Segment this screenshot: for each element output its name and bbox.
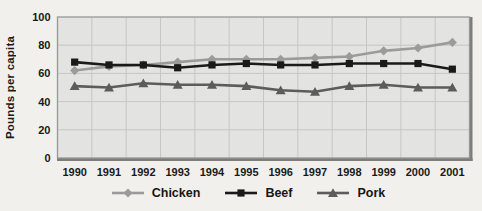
x-tick-label: 1992 bbox=[131, 166, 155, 178]
x-tick-label: 2000 bbox=[406, 166, 430, 178]
legend-label-pork: Pork bbox=[357, 186, 385, 200]
x-tick-label: 1994 bbox=[200, 166, 225, 178]
pork-triangle-marker-icon bbox=[316, 187, 350, 199]
x-tick-label: 1996 bbox=[268, 166, 292, 178]
chicken-legend-swatch bbox=[111, 187, 145, 199]
chicken-diamond-marker-icon bbox=[111, 187, 145, 199]
beef-marker-1992 bbox=[140, 61, 147, 68]
beef-marker-1991 bbox=[105, 61, 112, 68]
y-axis-title: Pounds per capita bbox=[1, 17, 18, 158]
beef-marker-1990 bbox=[71, 59, 78, 66]
beef-marker-1995 bbox=[243, 60, 250, 67]
beef-marker-2001 bbox=[449, 66, 456, 73]
legend-item-chicken: Chicken bbox=[111, 186, 201, 200]
beef-marker-1994 bbox=[208, 61, 215, 68]
plot-area: 0204060801001990199119921993199419951996… bbox=[0, 0, 482, 211]
beef-marker-1998 bbox=[346, 60, 353, 67]
x-tick-label: 1995 bbox=[234, 166, 258, 178]
legend-item-pork: Pork bbox=[316, 186, 385, 200]
beef-legend-swatch bbox=[224, 187, 258, 199]
x-tick-label: 2001 bbox=[440, 166, 464, 178]
chicken-legend-marker bbox=[123, 188, 132, 197]
y-tick-label: 0 bbox=[44, 152, 50, 164]
x-tick-label: 1999 bbox=[371, 166, 395, 178]
x-tick-label: 1998 bbox=[337, 166, 361, 178]
beef-marker-1997 bbox=[311, 61, 318, 68]
x-tick-label: 1997 bbox=[303, 166, 327, 178]
beef-marker-1999 bbox=[380, 60, 387, 67]
beef-legend-marker bbox=[238, 189, 245, 196]
beef-marker-2000 bbox=[414, 60, 421, 67]
meat-consumption-line-chart: 0204060801001990199119921993199419951996… bbox=[0, 0, 482, 211]
legend-label-chicken: Chicken bbox=[152, 186, 201, 200]
y-tick-label: 80 bbox=[38, 39, 50, 51]
beef-marker-1996 bbox=[277, 61, 284, 68]
y-tick-label: 40 bbox=[38, 96, 50, 108]
beef-square-marker-icon bbox=[224, 187, 258, 199]
x-tick-label: 1993 bbox=[165, 166, 189, 178]
y-tick-label: 20 bbox=[38, 124, 50, 136]
legend: Chicken Beef Pork bbox=[0, 183, 482, 203]
pork-legend-swatch bbox=[316, 187, 350, 199]
beef-marker-1993 bbox=[174, 64, 181, 71]
legend-label-beef: Beef bbox=[265, 186, 292, 200]
x-tick-label: 1990 bbox=[62, 166, 86, 178]
x-tick-label: 1991 bbox=[97, 166, 121, 178]
y-tick-label: 60 bbox=[38, 67, 50, 79]
y-tick-label: 100 bbox=[32, 11, 50, 23]
legend-item-beef: Beef bbox=[224, 186, 292, 200]
